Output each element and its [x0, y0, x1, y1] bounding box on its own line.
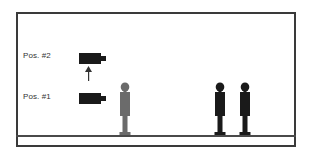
ground-line — [16, 135, 296, 137]
label-pos-2: Pos. #2 — [23, 51, 51, 60]
arrow-up-icon — [84, 66, 93, 82]
person-black-2-icon — [237, 82, 253, 137]
diagram-frame — [16, 12, 296, 147]
person-black-1-icon — [212, 82, 228, 137]
camera-lens — [101, 96, 106, 101]
label-pos-1: Pos. #1 — [23, 92, 51, 101]
camera-position-1-icon — [79, 93, 107, 105]
person-gray-icon — [117, 82, 133, 137]
camera-lens — [101, 56, 106, 61]
camera-body — [79, 93, 101, 104]
camera-position-2-icon — [79, 53, 107, 65]
camera-body — [79, 53, 101, 64]
